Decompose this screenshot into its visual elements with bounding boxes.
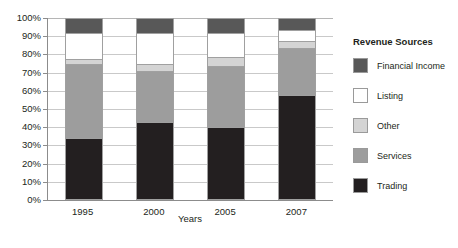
legend-item-label: Listing [377, 91, 403, 101]
bar-column[interactable] [278, 18, 316, 200]
y-axis-tick-label: 90% [0, 31, 41, 41]
legend-swatch [353, 118, 368, 133]
x-axis-title: Years [140, 213, 240, 224]
legend-item[interactable]: Financial Income [353, 57, 453, 74]
bar-segment[interactable] [66, 64, 102, 138]
legend-item[interactable]: Trading [353, 177, 453, 194]
bar-segment[interactable] [66, 138, 102, 199]
bar-segment[interactable] [208, 33, 244, 56]
bar-segment[interactable] [279, 30, 315, 41]
bar-column[interactable] [65, 18, 103, 200]
legend-item-label: Trading [377, 181, 407, 191]
y-axis-tick-label: 40% [0, 122, 41, 132]
x-axis-tick-label: 2007 [266, 206, 326, 217]
y-axis-tick-label: 60% [0, 86, 41, 96]
bar-segment[interactable] [137, 71, 173, 121]
plot-area [47, 18, 333, 201]
bar-segment[interactable] [137, 19, 173, 33]
bar-segment[interactable] [208, 19, 244, 33]
x-axis-tick-label: 1995 [53, 206, 113, 217]
y-axis-tick-label: 0% [0, 195, 41, 205]
y-axis-tick-label: 30% [0, 140, 41, 150]
legend-swatch [353, 88, 368, 103]
legend-swatch [353, 178, 368, 193]
bar-segment[interactable] [208, 66, 244, 127]
chart-root: 100%90%80%70%60%50%40%30%20%10%0% 199520… [0, 0, 458, 248]
bar-segment[interactable] [279, 48, 315, 95]
y-axis-tick-label: 50% [0, 104, 41, 114]
legend-item[interactable]: Services [353, 147, 453, 164]
bar-segment[interactable] [208, 127, 244, 199]
legend: Revenue Sources Financial IncomeListingO… [353, 36, 453, 207]
legend-item-label: Financial Income [377, 61, 445, 71]
legend-swatch [353, 58, 368, 73]
bar-column[interactable] [207, 18, 245, 200]
bar-segment[interactable] [279, 95, 315, 199]
y-axis-tick-label: 20% [0, 159, 41, 169]
legend-item[interactable]: Listing [353, 87, 453, 104]
y-axis-tick-label: 10% [0, 177, 41, 187]
bar-column[interactable] [136, 18, 174, 200]
y-axis-tick-label: 80% [0, 49, 41, 59]
bar-segment[interactable] [66, 19, 102, 33]
legend-item-label: Services [377, 151, 412, 161]
legend-title: Revenue Sources [353, 36, 453, 47]
y-axis-tick-label: 100% [0, 13, 41, 23]
bar-segment[interactable] [66, 33, 102, 58]
legend-item[interactable]: Other [353, 117, 453, 134]
bar-segment[interactable] [137, 64, 173, 71]
bar-segment[interactable] [137, 33, 173, 64]
bar-segment[interactable] [137, 122, 173, 199]
legend-item-label: Other [377, 121, 400, 131]
legend-swatch [353, 148, 368, 163]
bar-segment[interactable] [279, 19, 315, 30]
bar-segment[interactable] [279, 41, 315, 48]
bar-segment[interactable] [208, 57, 244, 66]
y-axis-tick-label: 70% [0, 68, 41, 78]
